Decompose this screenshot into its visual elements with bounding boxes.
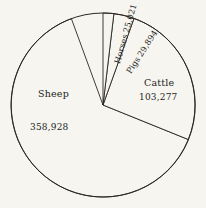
slice-label-cattle: Cattle [144, 77, 174, 88]
slice-value-cattle: 103,277 [139, 92, 177, 102]
slice-value-sheep: 358,928 [30, 122, 68, 132]
slice-label-sheep: Sheep [38, 88, 69, 99]
pie-chart-canvas [0, 0, 206, 208]
pie-chart: Sheep 358,928 Cattle 103,277 Horses25,02… [0, 0, 206, 208]
